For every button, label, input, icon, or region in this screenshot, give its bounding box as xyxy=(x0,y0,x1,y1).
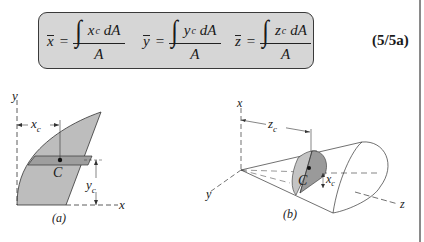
dim-label-yc: yc xyxy=(86,177,96,195)
centroid-dot-b xyxy=(307,166,311,170)
y-axis-b xyxy=(207,170,241,194)
dim-label-xc: xc xyxy=(31,116,41,134)
centroid-label-b: C xyxy=(298,173,307,189)
axis-label-x-b: x xyxy=(237,96,242,111)
caption-a: (a) xyxy=(52,211,66,226)
axis-label-z-b: z xyxy=(400,197,405,212)
centroid-dot xyxy=(58,158,62,162)
dim-label-xc-b: xc xyxy=(326,172,335,188)
centroid-label-a: C xyxy=(53,165,62,181)
figure-a-plane-area xyxy=(0,0,424,242)
dim-label-zc: zc xyxy=(268,116,277,134)
axis-label-y-b: y xyxy=(206,187,211,202)
caption-b: (b) xyxy=(283,207,297,222)
axis-label-x: x xyxy=(119,197,125,213)
axis-label-y: y xyxy=(12,88,18,104)
